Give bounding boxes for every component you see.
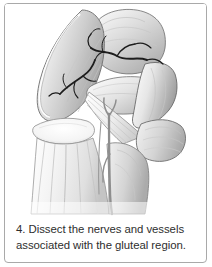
figure-caption: 4. Dissect the nerves and vessels associ…: [5, 218, 206, 262]
anatomy-illustration-svg: [5, 4, 206, 216]
vastus-lateralis: [136, 120, 185, 162]
illustration-bottom-fade: [5, 202, 206, 216]
caption-line-1: 4. Dissect the nerves and vessels: [16, 223, 184, 235]
caption-line-2: associated with the gluteal region.: [16, 239, 186, 251]
figure-card: 4. Dissect the nerves and vessels associ…: [4, 3, 207, 263]
anatomy-illustration: [5, 4, 206, 216]
